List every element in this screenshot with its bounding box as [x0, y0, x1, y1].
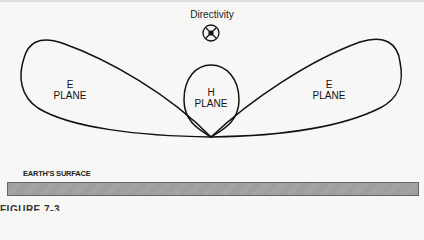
figure-caption: FIGURE 7-3	[0, 204, 60, 211]
e-plane-label-right: E PLANE	[299, 79, 359, 101]
h-plane-label: H PLANE	[181, 87, 241, 109]
earth-surface-label: EARTH'S SURFACE	[23, 169, 91, 178]
e-plane-label-right-line1: E	[299, 79, 359, 90]
h-plane-label-line1: H	[181, 87, 241, 98]
earth-surface-bar	[7, 182, 419, 196]
directivity-icon	[203, 25, 219, 41]
e-plane-label-right-line2: PLANE	[299, 90, 359, 101]
h-plane-label-line2: PLANE	[181, 98, 241, 109]
e-plane-label-left-line2: PLANE	[40, 90, 100, 101]
e-plane-label-left: E PLANE	[40, 79, 100, 101]
e-plane-label-left-line1: E	[40, 79, 100, 90]
